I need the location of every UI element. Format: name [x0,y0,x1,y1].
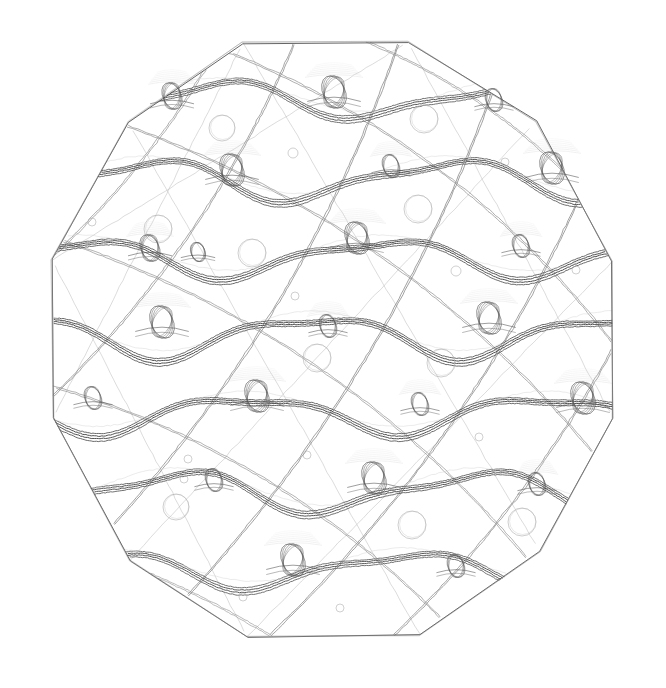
artwork-canvas [0,0,666,688]
line-art-svg [0,0,666,688]
